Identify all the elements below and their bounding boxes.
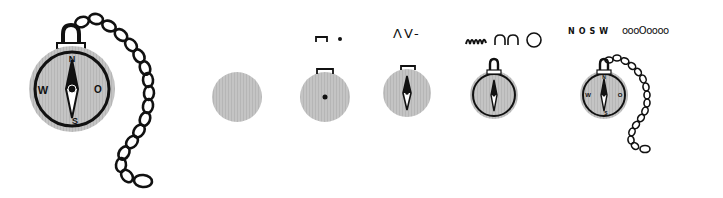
ring-symbol: [527, 33, 541, 47]
step-4: [466, 33, 541, 119]
step-3: [383, 66, 431, 117]
dot-symbol: [338, 37, 342, 41]
hanger-icon: [63, 25, 79, 44]
label-north: N: [69, 54, 76, 64]
hanger-symbol: [316, 37, 327, 42]
svg-text:N: N: [602, 74, 606, 80]
scribble-symbol: [466, 40, 486, 44]
step-5: N S W O: [580, 55, 650, 153]
compass-drawing-diagram: ΛV- NOSW oooOoooo: [0, 0, 723, 198]
step-1: [212, 72, 262, 122]
label-south: S: [72, 116, 78, 126]
final-compass: N S W O: [29, 13, 155, 188]
label-west: W: [38, 84, 49, 96]
svg-text:W: W: [585, 92, 591, 98]
label-east: O: [94, 84, 102, 95]
illustration: N S W O: [0, 0, 723, 198]
svg-text:O: O: [618, 92, 623, 98]
step-2: [300, 37, 350, 122]
